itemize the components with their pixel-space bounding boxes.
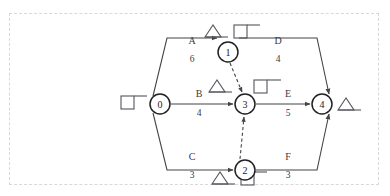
edge-value-D: 4: [276, 54, 281, 64]
triangle-with-base-icon: [212, 172, 235, 184]
nodes-group: 0 1 2 3 4: [150, 42, 332, 180]
edge-value-C: 3: [190, 170, 195, 180]
node-1[interactable]: 1: [218, 42, 238, 62]
node-3[interactable]: 3: [235, 94, 255, 114]
edge-value-E: 5: [286, 108, 291, 118]
edge-A-path[interactable]: [153, 38, 217, 96]
edge-dummy-2-3-path[interactable]: [240, 117, 244, 159]
node-1-label: 1: [226, 47, 231, 58]
node-0[interactable]: 0: [150, 94, 170, 114]
diagram-canvas: A 6 D 4 B 4 E 5 C 3 F 3: [0, 0, 390, 196]
edge-label-F: F: [285, 151, 291, 162]
node-0-label: 0: [158, 99, 163, 110]
edge-value-F: 3: [286, 170, 291, 180]
edge-value-A: 6: [190, 54, 195, 64]
triangle-with-base-icon: [205, 25, 228, 37]
node-4[interactable]: 4: [312, 94, 332, 114]
edge-label-C: C: [189, 151, 196, 162]
triangle-with-base-icon: [209, 80, 232, 92]
node-2-label: 2: [243, 165, 248, 176]
edge-label-B: B: [196, 88, 203, 99]
node-4-label: 4: [320, 99, 325, 110]
edge-D-path[interactable]: [239, 38, 329, 94]
square-with-tail-icon: [254, 80, 281, 93]
edge-label-D: D: [274, 35, 281, 46]
square-with-tail-icon: [121, 96, 147, 109]
edge-value-B: 4: [197, 108, 202, 118]
node-2[interactable]: 2: [235, 160, 255, 180]
network-diagram-svg: A 6 D 4 B 4 E 5 C 3 F 3: [0, 0, 390, 196]
edge-F-path[interactable]: [256, 114, 329, 170]
square-with-tail-icon: [234, 25, 260, 38]
triangle-with-base-icon: [338, 98, 361, 110]
edge-label-E: E: [285, 88, 291, 99]
node-3-label: 3: [243, 99, 248, 110]
edge-label-A: A: [188, 35, 196, 46]
edge-dummy-1-3-path[interactable]: [230, 63, 242, 92]
